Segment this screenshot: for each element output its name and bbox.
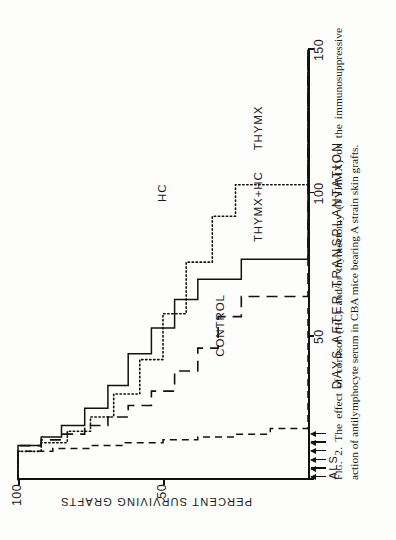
curve-thymx-hc xyxy=(18,50,308,480)
figure-stage: 50100 50100150 CONTROLHCTHYMXTHYMX+HC AL… xyxy=(0,0,396,540)
curve-hc xyxy=(18,50,308,480)
survival-curves xyxy=(18,50,308,480)
y-tick-label: 100 xyxy=(10,484,24,514)
chart-plot-area: 50100 50100150 CONTROLHCTHYMXTHYMX+HC AL… xyxy=(18,50,308,480)
y-axis-title: PERCENT SURVIVING GRAFTS xyxy=(26,496,286,508)
curve-label-thymx-hc: THYMX+HC xyxy=(252,171,264,242)
x-tick-label: 100 xyxy=(312,173,326,213)
figure-number: Fig. 2. xyxy=(332,447,344,480)
als-arrow xyxy=(311,459,326,460)
figure-caption: Fig. 2. The effect of cortisol (HC) and/… xyxy=(330,28,362,480)
als-arrow xyxy=(311,441,326,442)
curve-thymx xyxy=(18,50,308,480)
als-arrow xyxy=(311,467,326,468)
curve-label-thymx: THYMX xyxy=(252,106,264,151)
x-tick-label: 150 xyxy=(312,30,326,70)
curve-label-hc: HC xyxy=(156,184,168,202)
curve-label-control: CONTROL xyxy=(214,294,226,357)
figure-caption-text: The effect of cortisol (HC) and/or thyme… xyxy=(332,28,360,480)
als-arrow xyxy=(311,450,326,451)
x-tick-label: 50 xyxy=(312,317,326,357)
als-arrow xyxy=(311,476,326,477)
als-arrow xyxy=(311,433,326,434)
